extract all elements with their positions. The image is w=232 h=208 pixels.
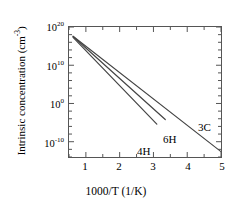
x-tick-label-1: 1 [78,161,92,172]
data-series [73,36,221,151]
y-axis-title-exponent: -3 [13,30,22,36]
plot-area [68,26,222,158]
series-line-6h [73,37,165,120]
series-label-3c: 3C [198,122,211,133]
x-axis-title: 1000/T (1/K) [0,185,232,197]
intrinsic-concentration-chart: Intrinsic concentration (cm-3) 1020 1010… [0,0,232,208]
series-line-4h [73,37,157,124]
y-tick-label-1e-10: 10-10 [44,137,64,149]
x-tick-label-5: 5 [215,161,229,172]
y-tick-label-1e0: 100 [50,98,64,110]
series-label-4h: 4H [137,146,150,157]
y-axis-title-tail: ) [15,26,27,30]
series-line-3c [73,36,221,151]
y-axis-title: Intrinsic concentration (cm-3) [13,11,27,171]
x-tick-label-3: 3 [146,161,160,172]
y-tick-label-1e20: 1020 [47,21,65,33]
x-tick-label-2: 2 [112,161,126,172]
y-tick-label-1e10: 1010 [47,60,65,72]
x-tick-label-4: 4 [181,161,195,172]
series-label-6h: 6H [163,134,176,145]
plot-svg [69,27,221,157]
y-axis-title-text: Intrinsic concentration (cm [15,36,27,155]
